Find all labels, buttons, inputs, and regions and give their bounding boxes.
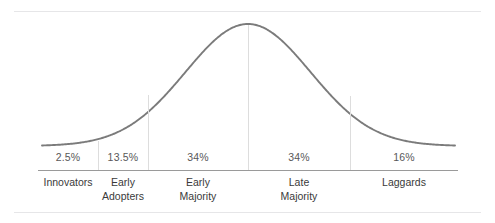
baseline-axis (38, 170, 458, 171)
segment-divider-1 (98, 141, 99, 170)
adoption-curve-chart: 2.5%13.5%34%34%16% InnovatorsEarlyAdopte… (0, 0, 495, 223)
segment-divider-3 (248, 25, 249, 170)
segment-divider-4 (350, 96, 351, 170)
segment-divider-2 (148, 95, 149, 170)
